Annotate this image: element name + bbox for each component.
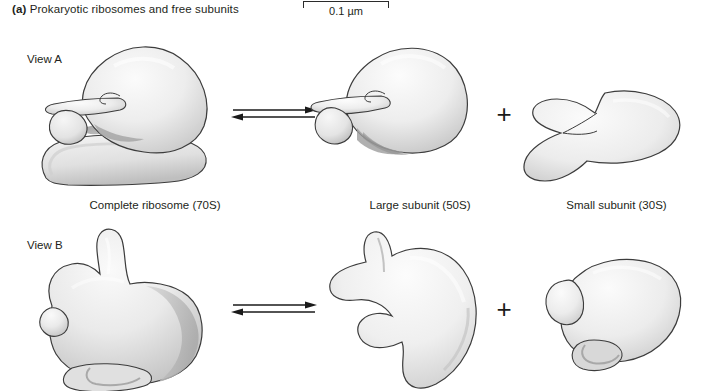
large-subunit-body-b2 — [330, 232, 476, 388]
panel-letter: (a) — [12, 3, 26, 15]
equilibrium-arrows-row-b — [231, 299, 317, 319]
panel-caption: (a) Prokaryotic ribosomes and free subun… — [12, 2, 239, 16]
arrow-forward-head-b — [305, 301, 317, 308]
large-subunit-view-a-illustration — [305, 40, 470, 180]
large-subunit-view-b-illustration — [322, 228, 487, 391]
caption-complete-ribosome: Complete ribosome (70S) — [0, 198, 310, 212]
scale-bar-label: 0.1 µm — [303, 4, 389, 18]
complete-ribosome-view-a-illustration — [28, 38, 223, 193]
panel-title: Prokaryotic ribosomes and free subunits — [30, 3, 239, 15]
small-subunit-platform-b2 — [572, 340, 622, 370]
arrow-reverse-head-a — [231, 113, 243, 120]
plus-sign-row-b: + — [491, 296, 517, 322]
scale-bar-rule — [303, 1, 389, 2]
small-subunit-body-a2 — [524, 91, 680, 181]
scale-bar: 0.1 µm — [303, 1, 389, 23]
caption-large-subunit: Large subunit (50S) — [300, 198, 540, 212]
small-subunit-view-b-illustration — [533, 245, 688, 380]
small-subunit-head-b2 — [546, 280, 584, 324]
figure-panel: (a) Prokaryotic ribosomes and free subun… — [0, 0, 728, 391]
small-subunit-body-b — [63, 364, 151, 391]
small-subunit-view-a-illustration — [513, 85, 683, 190]
arrow-reverse-head-b — [231, 308, 243, 315]
caption-small-subunit: Small subunit (30S) — [505, 198, 728, 212]
complete-ribosome-view-b-illustration — [28, 228, 223, 391]
